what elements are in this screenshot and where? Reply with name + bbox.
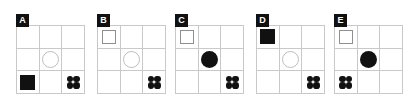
dot-icon	[154, 76, 160, 82]
grid-cell-r1-c2[interactable]	[302, 49, 325, 72]
grid-cell-r2-c2[interactable]	[380, 71, 403, 94]
panel-label-badge: D	[256, 14, 269, 27]
grid-cell-r0-c1[interactable]	[121, 26, 144, 49]
grid-cell-r0-c0[interactable]	[17, 26, 40, 49]
grid-cell-r2-c2[interactable]	[221, 71, 244, 94]
grid-cell-r0-c2[interactable]	[143, 26, 166, 49]
four-dot-cluster-icon	[67, 76, 80, 89]
grid-cell-r1-c2[interactable]	[380, 49, 403, 72]
grid-cell-r2-c2[interactable]	[62, 71, 85, 94]
grid-cell-r2-c1[interactable]	[121, 71, 144, 94]
grid-cell-r1-c0[interactable]	[335, 49, 358, 72]
grid-cell-r1-c2[interactable]	[143, 49, 166, 72]
grid-cell-r0-c0[interactable]	[335, 26, 358, 49]
grid-cell-r1-c2[interactable]	[221, 49, 244, 72]
grid-cell-r2-c0[interactable]	[98, 71, 121, 94]
dot-icon	[226, 76, 232, 82]
grid-cell-r1-c1[interactable]	[358, 49, 381, 72]
grid-cell-r2-c1[interactable]	[40, 71, 63, 94]
square-outline-icon	[180, 30, 194, 44]
grid-cell-r2-c0[interactable]	[335, 71, 358, 94]
circle-outline-icon	[282, 51, 299, 68]
square-filled-icon	[260, 29, 275, 44]
square-outline-icon	[102, 30, 116, 44]
dot-icon	[67, 76, 73, 82]
circle-outline-icon	[123, 51, 140, 68]
four-dot-cluster-icon	[226, 76, 239, 89]
dot-icon	[307, 82, 313, 88]
dot-icon	[232, 82, 238, 88]
dot-icon	[73, 82, 79, 88]
square-outline-icon	[339, 30, 353, 44]
dot-icon	[307, 76, 313, 82]
grid-cell-r1-c1[interactable]	[199, 49, 222, 72]
grid-cell-r0-c2[interactable]	[380, 26, 403, 49]
grid-cell-r1-c0[interactable]	[98, 49, 121, 72]
grid-cell-r1-c0[interactable]	[176, 49, 199, 72]
dot-icon	[232, 76, 238, 82]
dot-icon	[226, 82, 232, 88]
grid-cell-r1-c1[interactable]	[280, 49, 303, 72]
dot-icon	[346, 76, 352, 82]
dot-icon	[313, 82, 319, 88]
grid-cell-r0-c0[interactable]	[98, 26, 121, 49]
panel-label-badge: B	[97, 14, 110, 27]
grid-cell-r0-c1[interactable]	[280, 26, 303, 49]
four-dot-cluster-icon	[148, 76, 161, 89]
four-dot-cluster-icon	[307, 76, 320, 89]
four-dot-cluster-icon	[339, 76, 352, 89]
dot-icon	[154, 82, 160, 88]
grid-cell-r1-c2[interactable]	[62, 49, 85, 72]
panel-label-badge: A	[16, 14, 29, 27]
grid-cell-r0-c1[interactable]	[199, 26, 222, 49]
panel-label-badge: C	[175, 14, 188, 27]
grid-cell-r0-c0[interactable]	[257, 26, 280, 49]
dot-icon	[148, 82, 154, 88]
grid-cell-r0-c2[interactable]	[221, 26, 244, 49]
grid-cell-r0-c0[interactable]	[176, 26, 199, 49]
dot-icon	[148, 76, 154, 82]
panel-label-badge: E	[334, 14, 347, 27]
dot-icon	[67, 82, 73, 88]
dot-icon	[73, 76, 79, 82]
grid-cell-r0-c1[interactable]	[40, 26, 63, 49]
grid-cell-r1-c0[interactable]	[17, 49, 40, 72]
grid-cell-r2-c2[interactable]	[143, 71, 166, 94]
square-filled-icon	[20, 75, 35, 90]
grid-cell-r2-c0[interactable]	[257, 71, 280, 94]
dot-icon	[346, 82, 352, 88]
dot-icon	[313, 76, 319, 82]
shape-grid	[16, 25, 85, 94]
panel-row-container: ABCDE	[0, 0, 420, 98]
dot-icon	[339, 76, 345, 82]
shape-grid	[97, 25, 166, 94]
circle-outline-icon	[42, 51, 59, 68]
dot-icon	[339, 82, 345, 88]
grid-cell-r1-c1[interactable]	[121, 49, 144, 72]
grid-cell-r2-c1[interactable]	[199, 71, 222, 94]
shape-grid	[334, 25, 403, 94]
shape-grid	[256, 25, 325, 94]
grid-cell-r0-c1[interactable]	[358, 26, 381, 49]
grid-cell-r0-c2[interactable]	[62, 26, 85, 49]
grid-cell-r1-c0[interactable]	[257, 49, 280, 72]
grid-cell-r2-c0[interactable]	[176, 71, 199, 94]
grid-cell-r0-c2[interactable]	[302, 26, 325, 49]
grid-cell-r2-c1[interactable]	[358, 71, 381, 94]
grid-cell-r2-c2[interactable]	[302, 71, 325, 94]
grid-cell-r1-c1[interactable]	[40, 49, 63, 72]
grid-cell-r2-c1[interactable]	[280, 71, 303, 94]
shape-grid	[175, 25, 244, 94]
circle-filled-icon	[360, 51, 377, 68]
circle-filled-icon	[201, 51, 218, 68]
grid-cell-r2-c0[interactable]	[17, 71, 40, 94]
